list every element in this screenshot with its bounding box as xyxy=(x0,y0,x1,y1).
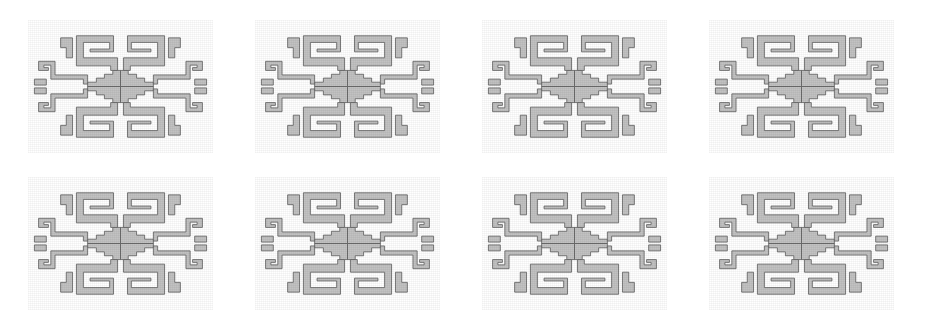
motif-band xyxy=(303,193,344,228)
motif-band xyxy=(350,103,391,138)
motif-band xyxy=(315,87,348,103)
motif-band xyxy=(422,79,434,85)
motif-band xyxy=(488,88,500,94)
stepped-fret-motif-icon xyxy=(482,20,667,153)
motif-band xyxy=(34,245,46,251)
motif-band xyxy=(168,195,180,215)
motif-band xyxy=(802,227,835,243)
motif-band xyxy=(849,115,861,135)
motif-band xyxy=(577,193,618,228)
motif-band xyxy=(88,70,121,86)
motif-band xyxy=(261,88,273,94)
motif-band xyxy=(121,87,154,103)
motif-band xyxy=(575,244,608,260)
motif-band xyxy=(395,195,407,215)
motif-band xyxy=(123,193,164,228)
motif-band xyxy=(515,115,527,135)
motif-band xyxy=(76,260,117,295)
motif-geometry xyxy=(261,193,433,295)
motif-band xyxy=(575,70,608,86)
motif-band xyxy=(876,245,888,251)
motif-band xyxy=(530,103,571,138)
motif-band xyxy=(769,227,802,243)
motif-band xyxy=(261,79,273,85)
motif-band xyxy=(395,272,407,292)
motif-tile-tile-r1-c2 xyxy=(255,20,440,153)
stepped-fret-motif-icon xyxy=(709,20,894,153)
motif-band xyxy=(288,272,300,292)
motif-band xyxy=(757,193,798,228)
motif-band xyxy=(350,260,391,295)
motif-band xyxy=(422,236,434,242)
motif-band xyxy=(757,103,798,138)
motif-band xyxy=(622,115,634,135)
motif-band xyxy=(123,260,164,295)
motif-band xyxy=(542,244,575,260)
motif-band xyxy=(649,79,661,85)
motif-tile-tile-r1-c4 xyxy=(709,20,894,153)
pattern-canvas xyxy=(0,0,941,328)
motif-band xyxy=(804,193,845,228)
motif-band xyxy=(348,87,381,103)
motif-band xyxy=(804,36,845,71)
motif-band xyxy=(649,88,661,94)
motif-band xyxy=(395,38,407,58)
motif-band xyxy=(34,236,46,242)
motif-band xyxy=(876,236,888,242)
motif-band xyxy=(422,88,434,94)
motif-band xyxy=(530,260,571,295)
motif-band xyxy=(288,115,300,135)
motif-band xyxy=(34,88,46,94)
motif-tile-tile-r1-c1 xyxy=(28,20,213,153)
motif-geometry xyxy=(488,36,660,138)
motif-band xyxy=(261,245,273,251)
motif-band xyxy=(315,70,348,86)
motif-band xyxy=(515,38,527,58)
motif-tile-tile-r2-c1 xyxy=(28,177,213,310)
motif-band xyxy=(350,36,391,71)
motif-band xyxy=(303,260,344,295)
motif-band xyxy=(804,103,845,138)
stepped-fret-motif-icon xyxy=(28,177,213,310)
stepped-fret-motif-icon xyxy=(482,177,667,310)
motif-band xyxy=(542,87,575,103)
motif-band xyxy=(348,244,381,260)
motif-band xyxy=(168,115,180,135)
motif-band xyxy=(488,79,500,85)
motif-band xyxy=(802,70,835,86)
motif-band xyxy=(88,244,121,260)
motif-band xyxy=(515,195,527,215)
motif-band xyxy=(575,227,608,243)
motif-band xyxy=(61,195,73,215)
motif-band xyxy=(577,36,618,71)
motif-band xyxy=(742,195,754,215)
motif-band xyxy=(61,38,73,58)
motif-band xyxy=(715,236,727,242)
motif-band xyxy=(76,193,117,228)
motif-band xyxy=(61,272,73,292)
motif-band xyxy=(121,227,154,243)
motif-band xyxy=(121,70,154,86)
motif-band xyxy=(303,36,344,71)
motif-band xyxy=(715,79,727,85)
motif-band xyxy=(577,260,618,295)
motif-band xyxy=(802,244,835,260)
motif-band xyxy=(804,260,845,295)
motif-tile-tile-r2-c4 xyxy=(709,177,894,310)
motif-band xyxy=(76,103,117,138)
motif-band xyxy=(88,87,121,103)
motif-band xyxy=(121,244,154,260)
motif-band xyxy=(168,272,180,292)
motif-band xyxy=(76,36,117,71)
motif-band xyxy=(61,115,73,135)
motif-band xyxy=(577,103,618,138)
motif-geometry xyxy=(488,193,660,295)
stepped-fret-motif-icon xyxy=(709,177,894,310)
motif-band xyxy=(742,38,754,58)
motif-band xyxy=(168,38,180,58)
motif-band xyxy=(348,227,381,243)
motif-band xyxy=(769,87,802,103)
motif-band xyxy=(195,236,207,242)
motif-band xyxy=(530,36,571,71)
stepped-fret-motif-icon xyxy=(255,177,440,310)
